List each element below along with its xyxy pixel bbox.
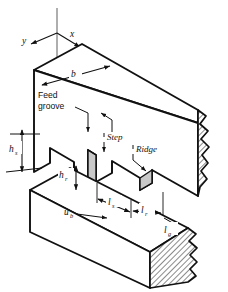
y-axis-label: y (21, 36, 27, 46)
dimension-hr-symbol: h (59, 170, 64, 180)
feed-groove-label-line1: Feed (38, 90, 58, 100)
step-label: Step (107, 132, 123, 142)
dimension-hs-symbol: h (9, 144, 14, 154)
step-ridge-bearing-diagram: y x b Feed groove Step (0, 0, 228, 292)
feed-groove-label-line2: groove (38, 101, 64, 111)
dimension-lr-symbol: l (141, 205, 144, 215)
dimension-ls-symbol: l (108, 197, 111, 207)
velocity-subscript: b (70, 212, 73, 219)
dimension-b-label: b (71, 69, 76, 79)
ridge-label: Ridge (135, 144, 157, 154)
velocity-symbol: u (64, 207, 69, 217)
dimension-lg-symbol: l (164, 225, 167, 235)
x-axis-label: x (69, 29, 75, 39)
figure-canvas: y x b Feed groove Step (0, 0, 228, 292)
